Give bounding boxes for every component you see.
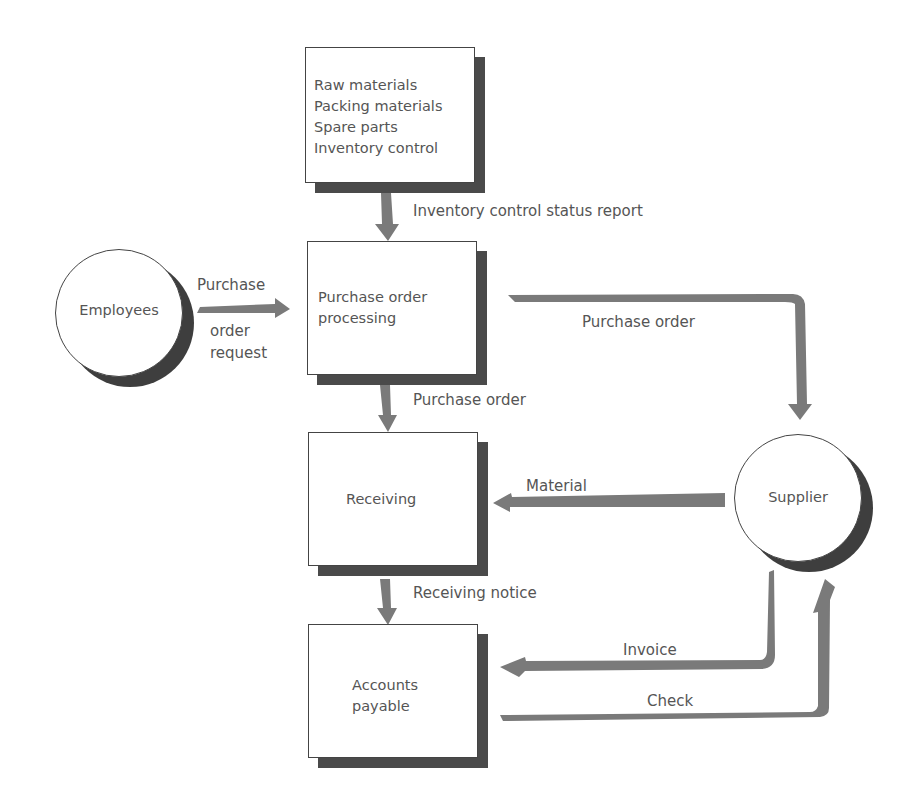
label-material: Material (526, 477, 587, 495)
label-po-request-1: Purchase (197, 276, 265, 294)
label-po-to-receiving: Purchase order (413, 391, 526, 409)
po-processing-line-2: processing (318, 308, 427, 329)
label-inventory-status: Inventory control status report (413, 202, 643, 220)
arrow-receiving-notice (377, 579, 397, 625)
arrow-material (493, 493, 725, 512)
accounts-payable-line-1: Accounts (352, 675, 418, 696)
label-check: Check (647, 692, 693, 710)
arrow-invoice (500, 570, 775, 677)
label-po-request-2: order (210, 322, 250, 340)
materials-store-text: Raw materials Packing materials Spare pa… (314, 75, 442, 159)
line-packing-materials: Packing materials (314, 96, 442, 117)
label-receiving-notice: Receiving notice (413, 584, 537, 602)
label-po-to-supplier: Purchase order (582, 313, 695, 331)
po-processing-line-1: Purchase order (318, 287, 427, 308)
supplier-label: Supplier (734, 489, 862, 505)
label-po-request-3: request (210, 344, 267, 362)
arrow-po-request (197, 298, 290, 318)
accounts-payable-text: Accounts payable (352, 675, 418, 717)
accounts-payable-line-2: payable (352, 696, 418, 717)
line-inventory-control: Inventory control (314, 138, 442, 159)
arrow-po-to-receiving (378, 385, 397, 432)
line-raw-materials: Raw materials (314, 75, 442, 96)
po-processing-text: Purchase order processing (318, 287, 427, 329)
employees-label: Employees (55, 302, 183, 318)
line-spare-parts: Spare parts (314, 117, 442, 138)
receiving-text: Receiving (346, 489, 416, 510)
arrow-inventory-status (375, 193, 399, 241)
label-invoice: Invoice (623, 641, 677, 659)
